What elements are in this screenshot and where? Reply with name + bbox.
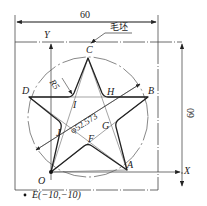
point-g-label: G: [102, 121, 109, 131]
r5-leader: [62, 78, 72, 94]
blank-label: 毛坯: [110, 23, 128, 32]
point-e-dot: [24, 194, 27, 197]
point-f-label: F: [88, 134, 94, 144]
axis-y-label: Y: [44, 30, 50, 40]
point-c-label: C: [86, 45, 93, 55]
axis-x-label: X: [184, 166, 190, 176]
point-i-label: I: [73, 100, 76, 110]
point-h-label: H: [107, 87, 114, 97]
point-e-label: E(−10,−10): [32, 190, 81, 200]
point-b-label: B: [148, 86, 154, 96]
point-a-label: A: [127, 160, 133, 170]
blank-frame: [15, 42, 182, 190]
point-j-label: J: [56, 128, 60, 138]
star-drawing: [0, 0, 207, 206]
height-dimension-label: 60: [186, 108, 196, 118]
origin-dot: [49, 170, 53, 174]
width-dimension-label: 60: [80, 10, 90, 20]
blank-leader: [91, 33, 132, 43]
point-d-label: D: [22, 86, 29, 96]
origin-label: O: [38, 176, 45, 186]
